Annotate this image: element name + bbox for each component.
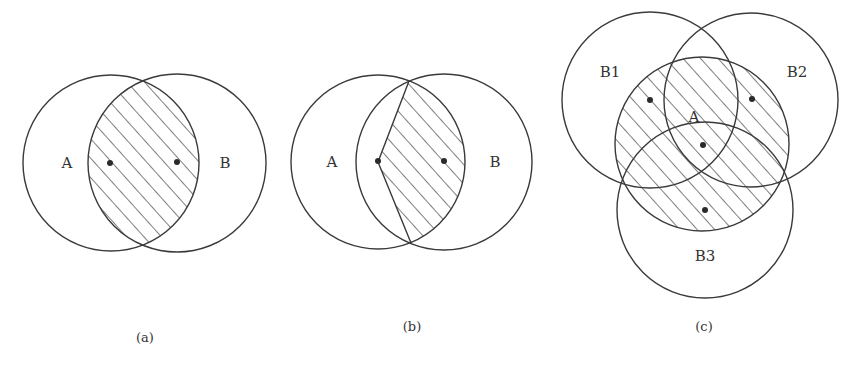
panel-a: A B	[23, 74, 266, 252]
caption-a: (a)	[136, 330, 154, 345]
figure: A B A B B1 B2 A B3 (a) (b) (c)	[0, 0, 852, 370]
hatched-region-b	[378, 81, 540, 243]
label-a-panel-c: A	[688, 108, 700, 126]
label-b-panel-b: B	[489, 153, 500, 171]
center-dot-b-panel-a	[174, 159, 180, 165]
center-dot-a-panel-b	[375, 158, 381, 164]
panel-b: A B	[291, 74, 540, 250]
label-b1-panel-c: B1	[600, 63, 621, 81]
label-b2-panel-c: B2	[787, 63, 808, 81]
center-dot-b2-panel-c	[749, 96, 755, 102]
center-dot-b-panel-b	[441, 158, 447, 164]
center-dot-b3-panel-c	[702, 207, 708, 213]
caption-c: (c)	[695, 319, 712, 334]
label-a-panel-b: A	[326, 153, 338, 171]
center-dot-b1-panel-c	[647, 97, 653, 103]
label-b3-panel-c: B3	[695, 247, 716, 265]
center-dot-a-panel-a	[107, 160, 113, 166]
center-dot-a-panel-c	[700, 142, 706, 148]
panel-c: B1 B2 A B3	[562, 12, 838, 298]
caption-b: (b)	[403, 319, 421, 334]
label-a-panel-a: A	[61, 154, 73, 172]
label-b-panel-a: B	[219, 154, 230, 172]
